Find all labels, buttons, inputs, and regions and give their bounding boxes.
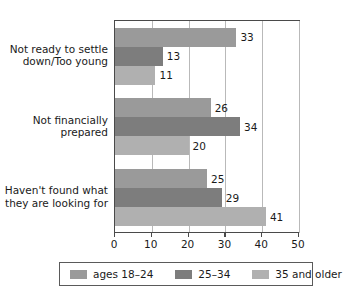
- bar-value-label: 20: [189, 140, 206, 152]
- x-axis-tick-label: 0: [102, 238, 126, 250]
- x-axis-tick: [114, 232, 115, 237]
- bar-row: 26: [115, 98, 299, 117]
- legend-item[interactable]: 25–34: [175, 268, 230, 280]
- bar-row: 13: [115, 47, 299, 66]
- legend-item[interactable]: ages 18–24: [70, 268, 153, 280]
- gridline: [299, 21, 300, 233]
- x-axis-line: [114, 232, 299, 233]
- legend-label: 35 and older: [275, 268, 342, 280]
- x-axis-tick-label: 30: [212, 238, 236, 250]
- category-axis-labels: Not ready to settledown/Too youngNot fin…: [0, 20, 108, 232]
- bar-row: 20: [115, 136, 299, 155]
- category-label-line: they are looking for: [0, 197, 108, 210]
- category-label-line: down/Too young: [0, 55, 108, 68]
- plot-area: 331311263420252941: [114, 20, 300, 233]
- legend-swatch: [175, 270, 192, 279]
- bar: [115, 66, 155, 85]
- x-axis-tick-label: 40: [249, 238, 273, 250]
- category-label: Haven't found whatthey are looking for: [0, 184, 108, 209]
- x-axis-tick: [224, 232, 225, 237]
- bar: [115, 98, 211, 117]
- bar-group: 252941: [115, 162, 299, 233]
- bar-value-label: 25: [207, 173, 224, 185]
- bar-row: 34: [115, 117, 299, 136]
- category-label-line: Not financially: [0, 114, 108, 127]
- bar-row: 33: [115, 28, 299, 47]
- bar: [115, 207, 266, 226]
- legend-item[interactable]: 35 and older: [252, 268, 342, 280]
- bar: [115, 47, 163, 66]
- bar: [115, 169, 207, 188]
- bar-group: 331311: [115, 21, 299, 92]
- bar-value-label: 41: [266, 211, 283, 223]
- x-axis-tick: [261, 232, 262, 237]
- bar-value-label: 34: [240, 121, 257, 133]
- x-axis-tick: [151, 232, 152, 237]
- x-axis-tick: [188, 232, 189, 237]
- category-label-line: Haven't found what: [0, 184, 108, 197]
- category-label-line: Not ready to settle: [0, 43, 108, 56]
- bar-row: 25: [115, 169, 299, 188]
- bar-chart: Not ready to settledown/Too youngNot fin…: [0, 0, 346, 301]
- bar: [115, 117, 240, 136]
- category-label-line: prepared: [0, 126, 108, 139]
- bar: [115, 188, 222, 207]
- x-axis-tick-label: 20: [176, 238, 200, 250]
- chart-legend: ages 18–2425–3435 and older: [59, 262, 313, 286]
- bar-group: 263420: [115, 92, 299, 163]
- category-label: Not ready to settledown/Too young: [0, 43, 108, 68]
- category-label: Not financiallyprepared: [0, 114, 108, 139]
- x-axis-tick: [298, 232, 299, 237]
- bar-value-label: 29: [222, 192, 239, 204]
- bar-value-label: 13: [163, 50, 180, 62]
- x-axis-tick-label: 10: [139, 238, 163, 250]
- bar-value-label: 11: [155, 69, 172, 81]
- legend-swatch: [252, 270, 269, 279]
- bar: [115, 28, 236, 47]
- bar-row: 41: [115, 207, 299, 226]
- bar-value-label: 26: [211, 102, 228, 114]
- x-axis-tick-label: 50: [286, 238, 310, 250]
- bar: [115, 136, 189, 155]
- legend-label: 25–34: [198, 268, 230, 280]
- bar-row: 29: [115, 188, 299, 207]
- bar-row: 11: [115, 66, 299, 85]
- legend-label: ages 18–24: [93, 268, 153, 280]
- bar-value-label: 33: [236, 31, 253, 43]
- legend-swatch: [70, 270, 87, 279]
